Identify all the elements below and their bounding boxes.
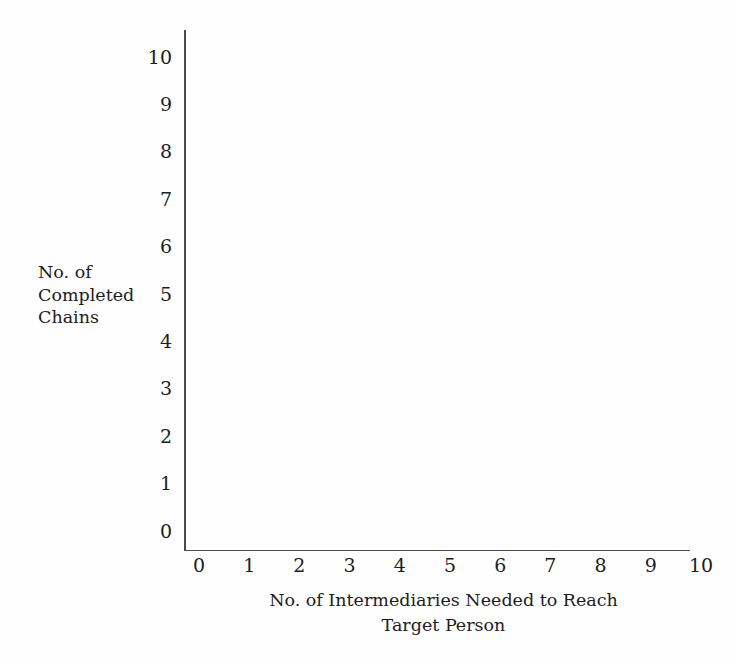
x-tick-label: 0: [193, 556, 205, 575]
x-tick-label: 7: [544, 556, 556, 575]
chart-figure: 109876543210 012345678910 No. of Complet…: [0, 0, 737, 664]
x-tick-label: 3: [344, 556, 356, 575]
x-tick-label: 2: [293, 556, 305, 575]
x-tick-label: 10: [689, 556, 713, 575]
x-tick-label: 8: [595, 556, 607, 575]
x-tick-label: 4: [394, 556, 406, 575]
x-axis-tick-labels: 012345678910: [0, 0, 737, 664]
x-tick-label: 5: [444, 556, 456, 575]
x-tick-label: 6: [494, 556, 506, 575]
x-tick-label: 1: [243, 556, 255, 575]
y-axis-title: No. of Completed Chains: [38, 261, 168, 329]
x-axis-title: No. of Intermediaries Needed to Reach Ta…: [150, 588, 737, 638]
x-tick-label: 9: [645, 556, 657, 575]
